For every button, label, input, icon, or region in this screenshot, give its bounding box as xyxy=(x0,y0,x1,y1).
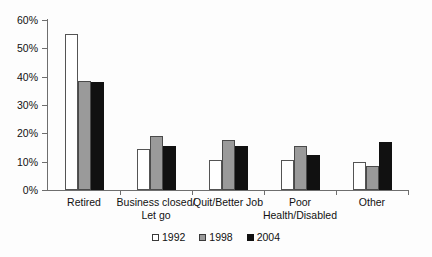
bar-group xyxy=(336,20,408,190)
y-axis-tick-label: 20% xyxy=(0,128,38,139)
legend-item-2004[interactable]: 2004 xyxy=(247,232,280,243)
x-axis-tick-mark xyxy=(408,190,409,195)
bar-1992-1[interactable] xyxy=(65,34,78,190)
x-axis-tick-mark xyxy=(336,190,337,195)
y-axis-tick-mark xyxy=(42,48,47,49)
y-axis-tick-label: 0% xyxy=(0,185,38,196)
bar-chart: 0%10%20%30%40%50%60% RetiredBusiness clo… xyxy=(0,0,432,257)
legend-swatch-icon xyxy=(199,234,206,241)
y-axis-tick-mark xyxy=(42,77,47,78)
legend-item-1998[interactable]: 1998 xyxy=(199,232,232,243)
legend-label: 2004 xyxy=(257,232,280,243)
bar-2004-2[interactable] xyxy=(163,146,176,190)
legend-swatch-icon xyxy=(152,234,159,241)
y-axis-tick-label: 60% xyxy=(0,15,38,26)
x-axis-tick-mark xyxy=(264,190,265,195)
bar-2004-3[interactable] xyxy=(235,146,248,190)
y-axis-tick-mark xyxy=(42,190,47,191)
y-axis-tick-mark xyxy=(42,133,47,134)
bar-2004-1[interactable] xyxy=(91,82,104,190)
y-axis-tick-label: 10% xyxy=(0,156,38,167)
legend-label: 1998 xyxy=(209,232,232,243)
category-label: Other xyxy=(324,196,420,209)
bar-2004-5[interactable] xyxy=(379,142,392,190)
bar-group xyxy=(48,20,120,190)
bar-group xyxy=(192,20,264,190)
y-axis-tick-mark xyxy=(42,20,47,21)
y-axis-tick-label: 40% xyxy=(0,71,38,82)
legend-swatch-icon xyxy=(247,234,254,241)
bar-1998-4[interactable] xyxy=(294,146,307,190)
bar-1992-3[interactable] xyxy=(209,160,222,190)
bar-group xyxy=(120,20,192,190)
bar-1998-2[interactable] xyxy=(150,136,163,190)
x-axis-line xyxy=(47,190,408,191)
y-axis-tick-mark xyxy=(42,162,47,163)
chart-legend: 199219982004 xyxy=(0,232,432,243)
bar-1998-5[interactable] xyxy=(366,166,379,190)
plot-area xyxy=(48,20,408,190)
bar-2004-4[interactable] xyxy=(307,155,320,190)
bar-1992-2[interactable] xyxy=(137,149,150,190)
bar-1992-4[interactable] xyxy=(281,160,294,190)
x-axis-tick-mark xyxy=(120,190,121,195)
legend-label: 1992 xyxy=(162,232,185,243)
bar-1998-1[interactable] xyxy=(78,81,91,190)
bar-1992-5[interactable] xyxy=(353,162,366,190)
legend-item-1992[interactable]: 1992 xyxy=(152,232,185,243)
bar-group xyxy=(264,20,336,190)
y-axis-tick-label: 50% xyxy=(0,43,38,54)
y-axis-tick-mark xyxy=(42,105,47,106)
x-axis-tick-mark xyxy=(192,190,193,195)
y-axis-tick-label: 30% xyxy=(0,100,38,111)
bar-1998-3[interactable] xyxy=(222,140,235,190)
